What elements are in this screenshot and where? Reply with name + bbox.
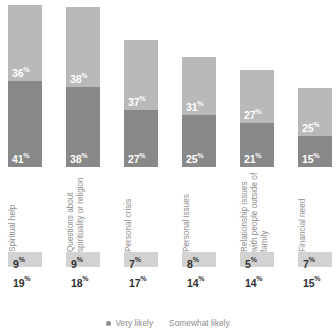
- annotation-cell-plain: 18%: [66, 271, 100, 286]
- annotation-cell-highlighted: 7%: [298, 252, 332, 267]
- bar-stack: 37% 27%: [124, 40, 158, 167]
- chart-legend: Very likely Somewhat likely: [0, 316, 336, 330]
- annotation-cell-highlighted: 7%: [124, 252, 158, 267]
- category-label: Spiritual help: [8, 167, 42, 252]
- bar-segment-label: 21%: [244, 152, 261, 164]
- bar-segment-label: 27%: [244, 108, 261, 120]
- bar-segment-very-likely[interactable]: 27%: [124, 110, 158, 167]
- bar-group[interactable]: 36% 41%: [8, 5, 42, 167]
- bar-segment-very-likely[interactable]: 41%: [8, 81, 42, 167]
- bar-segment-label: 41%: [12, 152, 29, 164]
- bar-segment-label: 25%: [186, 152, 203, 164]
- annotation-cell-plain: 19%: [8, 271, 42, 286]
- bar-stack: 27% 21%: [240, 70, 274, 167]
- bar-segment-somewhat-likely[interactable]: 38%: [66, 7, 100, 87]
- bar-segment-somewhat-likely[interactable]: 36%: [8, 5, 42, 81]
- bar-segment-label: 15%: [302, 152, 319, 164]
- bar-group[interactable]: 31% 25%: [182, 57, 216, 167]
- annotation-cell-plain: 15%: [298, 271, 332, 286]
- category-label: Relationship issues with people outside …: [240, 167, 274, 252]
- bar-stack: 36% 41%: [8, 5, 42, 167]
- bar-group[interactable]: 25% 15%: [298, 88, 332, 167]
- stacked-bar-chart: 36% 41% 38% 38% 37%: [0, 0, 336, 335]
- annotation-value-rows: 9% 9% 7% 8% 5% 7% 19% 18% 17% 14%: [0, 252, 336, 300]
- annotation-cell-highlighted: 5%: [240, 252, 274, 267]
- bar-segment-somewhat-likely[interactable]: 31%: [182, 57, 216, 115]
- bar-group[interactable]: 37% 27%: [124, 40, 158, 167]
- bar-group[interactable]: 27% 21%: [240, 70, 274, 167]
- legend-label: Somewhat likely: [169, 319, 230, 327]
- bar-segment-label: 36%: [12, 66, 29, 78]
- bar-segment-label: 38%: [70, 152, 87, 164]
- bar-segment-somewhat-likely[interactable]: 25%: [298, 88, 332, 136]
- annotation-cell-plain: 17%: [124, 271, 158, 286]
- bar-group[interactable]: 38% 38%: [66, 7, 100, 167]
- annotation-cell-highlighted: 9%: [66, 252, 100, 267]
- bar-segment-very-likely[interactable]: 25%: [182, 115, 216, 167]
- annotation-cell-highlighted: 9%: [8, 252, 42, 267]
- bar-stack: 38% 38%: [66, 7, 100, 167]
- bar-segment-very-likely[interactable]: 15%: [298, 136, 332, 167]
- category-label: Questions about spirituality or religion: [66, 167, 100, 252]
- annotation-cell-plain: 14%: [182, 271, 216, 286]
- category-label: Personal crisis: [124, 167, 158, 252]
- bar-stack: 31% 25%: [182, 57, 216, 167]
- bar-segment-somewhat-likely[interactable]: 27%: [240, 70, 274, 123]
- category-label: Financial need: [298, 167, 332, 252]
- legend-item-very-likely[interactable]: Very likely: [106, 319, 153, 327]
- bar-segment-label: 27%: [128, 152, 145, 164]
- bar-segment-label: 37%: [128, 95, 145, 107]
- legend-dot-icon: [106, 321, 111, 326]
- category-label: Personal issues: [182, 167, 216, 252]
- bar-segment-label: 31%: [186, 100, 203, 112]
- legend-item-somewhat-likely[interactable]: Somewhat likely: [169, 319, 230, 327]
- bar-segment-label: 38%: [70, 72, 87, 84]
- bar-segment-somewhat-likely[interactable]: 37%: [124, 40, 158, 110]
- bar-stack: 25% 15%: [298, 88, 332, 167]
- bar-segment-label: 25%: [302, 121, 319, 133]
- bar-segment-very-likely[interactable]: 21%: [240, 123, 274, 167]
- bar-segment-very-likely[interactable]: 38%: [66, 87, 100, 167]
- plot-area: 36% 41% 38% 38% 37%: [0, 0, 336, 167]
- annotation-cell-highlighted: 8%: [182, 252, 216, 267]
- category-axis: Spiritual help Questions about spiritual…: [0, 167, 336, 252]
- annotation-cell-plain: 14%: [240, 271, 274, 286]
- legend-label: Very likely: [115, 319, 153, 327]
